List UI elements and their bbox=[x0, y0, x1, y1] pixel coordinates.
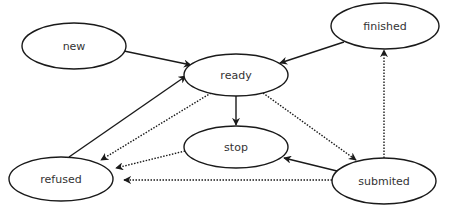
edge-stop-to-refused bbox=[116, 151, 185, 168]
node-stop-label: stop bbox=[224, 141, 248, 154]
edge-refused-to-ready bbox=[69, 76, 186, 157]
node-submited[interactable]: submited bbox=[332, 158, 436, 204]
node-stop[interactable]: stop bbox=[184, 126, 288, 168]
node-finished[interactable]: finished bbox=[331, 3, 439, 49]
node-finished-label: finished bbox=[363, 20, 406, 33]
node-new-label: new bbox=[63, 40, 86, 53]
node-refused[interactable]: refused bbox=[9, 157, 113, 201]
state-diagram: new ready finished stop refused submited bbox=[0, 0, 454, 215]
node-refused-label: refused bbox=[40, 173, 81, 186]
edge-submited-to-stop bbox=[284, 158, 337, 171]
node-ready-label: ready bbox=[220, 69, 252, 82]
edge-new-to-ready bbox=[124, 51, 191, 65]
node-ready[interactable]: ready bbox=[184, 54, 288, 96]
edge-finished-to-ready bbox=[280, 42, 344, 63]
node-new[interactable]: new bbox=[22, 23, 126, 69]
node-submited-label: submited bbox=[358, 175, 410, 188]
